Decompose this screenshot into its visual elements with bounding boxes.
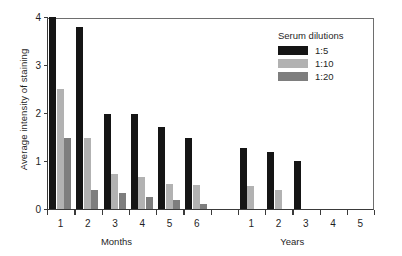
y-tick-label: 4 bbox=[35, 12, 41, 23]
x-tick-mark bbox=[129, 210, 130, 215]
bar-group bbox=[184, 19, 211, 209]
y-tick-label: 2 bbox=[35, 108, 41, 119]
x-tick-label: 2 bbox=[85, 218, 91, 229]
x-tick-mark bbox=[74, 210, 75, 215]
legend-item: 1:10 bbox=[278, 58, 370, 69]
x-tick-mark bbox=[347, 210, 348, 215]
x-tick-label: 4 bbox=[140, 218, 146, 229]
bar bbox=[294, 161, 301, 209]
x-tick-label: 3 bbox=[112, 218, 118, 229]
bar-group bbox=[103, 19, 130, 209]
x-tick-mark bbox=[156, 210, 157, 215]
x-tick-mark bbox=[374, 210, 375, 215]
bar-group bbox=[157, 19, 184, 209]
bar bbox=[166, 184, 173, 209]
bar bbox=[247, 186, 254, 209]
bar bbox=[240, 148, 247, 209]
x-tick-label: 6 bbox=[194, 218, 200, 229]
y-tick-label: 0 bbox=[35, 204, 41, 215]
bar bbox=[104, 114, 111, 209]
bar bbox=[185, 138, 192, 209]
bar bbox=[193, 185, 200, 209]
x-tick-label: 3 bbox=[303, 218, 309, 229]
x-tick-mark bbox=[102, 210, 103, 215]
bar bbox=[76, 27, 83, 209]
bar bbox=[173, 200, 180, 209]
legend-label: 1:10 bbox=[315, 58, 334, 69]
x-tick-label: 4 bbox=[330, 218, 336, 229]
x-tick-mark bbox=[292, 210, 293, 215]
bar bbox=[138, 177, 145, 209]
y-tick-label: 1 bbox=[35, 156, 41, 167]
bar bbox=[49, 17, 56, 209]
bar-group bbox=[48, 19, 75, 209]
bar bbox=[158, 127, 165, 209]
legend-swatch bbox=[278, 46, 308, 55]
y-axis-title: Average intensity of staining bbox=[18, 15, 29, 205]
bar-group bbox=[239, 19, 266, 209]
legend-title: Serum dilutions bbox=[278, 30, 370, 41]
bar bbox=[91, 190, 98, 209]
x-tick-label: 1 bbox=[249, 218, 255, 229]
legend-swatch bbox=[278, 59, 308, 68]
bar-group bbox=[130, 19, 157, 209]
bar bbox=[84, 138, 91, 209]
bar bbox=[146, 197, 153, 209]
y-tick-label: 3 bbox=[35, 60, 41, 71]
x-group-title: Months bbox=[101, 236, 132, 247]
x-tick-label: 5 bbox=[358, 218, 364, 229]
bar bbox=[119, 193, 126, 209]
x-tick-mark bbox=[238, 210, 239, 215]
bar bbox=[275, 190, 282, 209]
bar bbox=[267, 152, 274, 209]
x-tick-label: 2 bbox=[276, 218, 282, 229]
bar-group bbox=[212, 19, 239, 209]
x-group-title: Years bbox=[280, 236, 304, 247]
chart-legend: Serum dilutions 1:51:101:20 bbox=[278, 30, 370, 84]
legend-swatch bbox=[278, 72, 308, 81]
bar bbox=[131, 114, 138, 209]
bar bbox=[111, 174, 118, 209]
legend-label: 1:20 bbox=[315, 71, 334, 82]
x-tick-mark bbox=[320, 210, 321, 215]
x-tick-mark bbox=[183, 210, 184, 215]
bar bbox=[64, 138, 71, 209]
bar bbox=[57, 89, 64, 209]
x-tick-mark bbox=[47, 210, 48, 215]
x-tick-label: 1 bbox=[58, 218, 64, 229]
x-tick-mark bbox=[265, 210, 266, 215]
x-tick-mark bbox=[211, 210, 212, 215]
legend-label: 1:5 bbox=[315, 45, 328, 56]
x-tick-label: 5 bbox=[167, 218, 173, 229]
bar-group bbox=[75, 19, 102, 209]
legend-item: 1:20 bbox=[278, 71, 370, 82]
bar-chart-figure: Average intensity of staining 01234 1234… bbox=[0, 0, 402, 256]
bar bbox=[200, 204, 207, 209]
legend-items: 1:51:101:20 bbox=[278, 45, 370, 82]
legend-item: 1:5 bbox=[278, 45, 370, 56]
